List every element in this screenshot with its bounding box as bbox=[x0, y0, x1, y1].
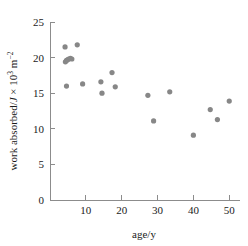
data-points bbox=[62, 42, 231, 138]
data-point bbox=[69, 56, 74, 61]
data-point bbox=[98, 79, 103, 84]
data-point bbox=[64, 83, 69, 88]
y-tick-label: 20 bbox=[33, 52, 45, 64]
x-tick-label: 10 bbox=[80, 204, 92, 216]
y-tick-label: 10 bbox=[33, 123, 45, 135]
data-point bbox=[99, 91, 104, 96]
data-point bbox=[151, 118, 156, 123]
data-point bbox=[113, 84, 118, 89]
scatter-plot-figure: 1020304050 0510152025 age/y work absorbe… bbox=[0, 0, 248, 246]
y-tick-label: 0 bbox=[39, 194, 45, 206]
data-point bbox=[62, 44, 67, 49]
x-tick-label: 20 bbox=[116, 204, 128, 216]
chart-canvas: 1020304050 0510152025 age/y work absorbe… bbox=[0, 0, 248, 246]
y-axis-title-text: work absorbed/J × 103 m−2 bbox=[6, 51, 20, 170]
data-point bbox=[80, 81, 85, 86]
data-point bbox=[191, 133, 196, 138]
x-tick-labels: 1020304050 bbox=[80, 204, 235, 216]
data-point bbox=[145, 93, 150, 98]
data-point bbox=[75, 42, 80, 47]
y-tick-labels: 0510152025 bbox=[33, 16, 45, 206]
y-axis-title: work absorbed/J × 103 m−2 bbox=[6, 51, 20, 170]
x-tick-label: 40 bbox=[188, 204, 200, 216]
y-tick-label: 5 bbox=[39, 158, 45, 170]
x-tick-label: 30 bbox=[152, 204, 164, 216]
x-axis-title: age/y bbox=[132, 228, 156, 240]
data-point bbox=[227, 98, 232, 103]
y-tick-label: 15 bbox=[33, 87, 45, 99]
data-point bbox=[215, 117, 220, 122]
x-tick-label: 50 bbox=[224, 204, 236, 216]
data-point bbox=[208, 107, 213, 112]
y-tick-label: 25 bbox=[33, 16, 45, 28]
data-point bbox=[109, 70, 114, 75]
tick-marks bbox=[50, 22, 229, 200]
data-point bbox=[167, 89, 172, 94]
